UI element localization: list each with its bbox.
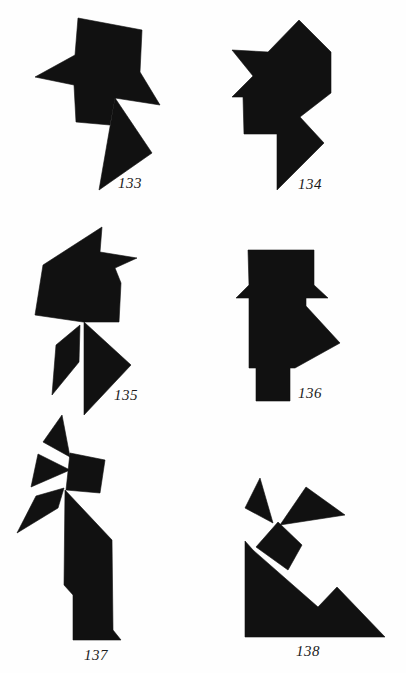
book-page: 133 134 135 136 137 138 [0, 0, 406, 673]
figure-137 [17, 415, 121, 640]
tangram-piece [17, 488, 64, 533]
tangram-piece [236, 250, 340, 401]
figure-label-137: 137 [84, 648, 108, 663]
tangram-piece [52, 325, 80, 395]
tangram-figures-canvas [0, 0, 406, 673]
figure-133 [35, 18, 160, 190]
figure-label-135: 135 [114, 388, 138, 403]
figure-label-133: 133 [118, 176, 142, 191]
tangram-piece [245, 541, 385, 637]
tangram-piece [232, 20, 331, 190]
tangram-piece [280, 487, 345, 525]
tangram-piece [43, 415, 70, 457]
figure-134 [232, 20, 331, 190]
figure-136 [236, 250, 340, 401]
tangram-piece [245, 478, 273, 523]
tangram-piece [66, 453, 105, 493]
figure-label-134: 134 [298, 177, 322, 192]
tangram-piece [64, 490, 121, 640]
tangram-piece [35, 18, 160, 125]
figure-label-138: 138 [296, 644, 320, 659]
tangram-piece [31, 454, 70, 487]
figure-label-136: 136 [298, 386, 322, 401]
tangram-piece [35, 227, 137, 322]
figure-138 [245, 478, 385, 637]
